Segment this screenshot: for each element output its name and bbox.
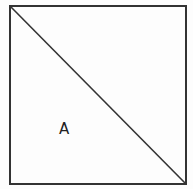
diagonal-line [10,6,186,184]
region-label-a: A [59,122,69,137]
diagram-canvas [0,0,193,189]
square-diagram: A [0,0,193,189]
